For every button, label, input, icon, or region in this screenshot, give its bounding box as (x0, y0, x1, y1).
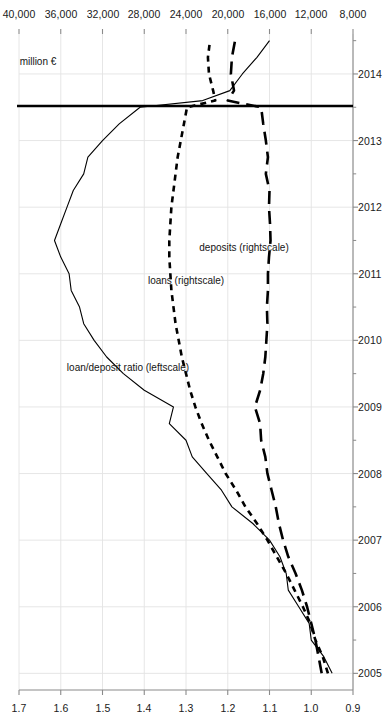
xtick-label-year: 2007 (358, 534, 382, 546)
ytick-label-left: 1.3 (179, 702, 194, 714)
rotated-plot-container: 0.91.01.11.21.31.41.51.61.78,00012,00016… (0, 0, 386, 728)
ytick-label-left: 1.2 (220, 702, 235, 714)
chart-figure: 0.91.01.11.21.31.41.51.61.78,00012,00016… (0, 0, 386, 728)
ytick-label-right: 20,000 (211, 8, 244, 20)
ytick-label-right: 8,000 (340, 8, 367, 20)
ytick-label-right: 36,000 (44, 8, 77, 20)
xtick-label-year: 2005 (358, 667, 382, 679)
ytick-label-right: 16,000 (253, 8, 286, 20)
ytick-label-right: 28,000 (128, 8, 161, 20)
ytick-label-left: 1.4 (137, 702, 152, 714)
series-line-0 (54, 41, 332, 674)
series-line-1 (169, 41, 328, 674)
xtick-label-year: 2010 (358, 334, 382, 346)
series-annotation-2: deposits (rightscale) (200, 242, 289, 253)
ytick-label-left: 1.6 (53, 702, 68, 714)
plot-area: 0.91.01.11.21.31.41.51.61.78,00012,00016… (0, 0, 386, 728)
ytick-label-left: 0.9 (346, 702, 361, 714)
series-line-2 (228, 41, 322, 674)
ytick-label-right: 24,000 (170, 8, 203, 20)
xtick-label-year: 2008 (358, 468, 382, 480)
ytick-label-left: 1.5 (95, 702, 110, 714)
xtick-label-year: 2012 (358, 201, 382, 213)
ytick-label-left: 1.7 (12, 702, 27, 714)
ytick-label-right: 32,000 (86, 8, 119, 20)
ytick-label-left: 1.0 (304, 702, 319, 714)
xtick-label-year: 2006 (358, 601, 382, 613)
series-annotation-3: million € (19, 55, 56, 66)
xtick-label-year: 2014 (358, 68, 382, 80)
series-annotation-0: loan/deposit ratio (leftscale) (66, 362, 188, 373)
ytick-label-left: 1.1 (262, 702, 277, 714)
data-layer (0, 0, 386, 728)
xtick-label-year: 2011 (359, 268, 382, 280)
xtick-label-year: 2009 (358, 401, 382, 413)
ytick-label-right: 12,000 (295, 8, 328, 20)
xtick-label-year: 2013 (358, 135, 382, 147)
series-annotation-1: loans (rightscale) (148, 275, 224, 286)
ytick-label-right: 40,000 (3, 8, 36, 20)
